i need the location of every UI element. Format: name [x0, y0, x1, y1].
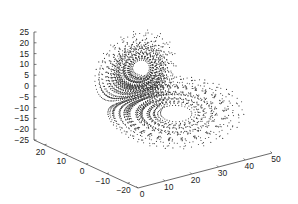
z-tick-label: −15	[15, 113, 30, 123]
x-tick-label: 50	[271, 154, 281, 164]
x-tick-label: 20	[191, 175, 201, 185]
z-axis-ticks: 2520151050−5−10−15−20−25	[15, 27, 37, 145]
z-tick-label: −10	[15, 103, 30, 113]
z-tick-label: 15	[20, 49, 30, 59]
lorenz-3d-plot: 2520151050−5−10−15−20−25 20100−10−20 010…	[0, 0, 298, 204]
z-tick-label: −25	[15, 135, 30, 145]
x-tick	[190, 172, 192, 174]
x-tick-label: 0	[140, 189, 145, 199]
x-tick	[270, 151, 272, 153]
x-tick	[244, 158, 246, 160]
z-tick-label: 25	[20, 27, 30, 37]
y-tick-label: 20	[36, 147, 46, 157]
z-tick-label: 5	[24, 70, 29, 80]
attractor-points	[94, 29, 244, 149]
z-tick-label: 10	[20, 59, 30, 69]
x-axis-ticks: 01020304050	[136, 151, 281, 199]
z-tick-label: −5	[19, 92, 29, 102]
y-tick	[86, 163, 88, 164]
x-tick-label: 30	[218, 168, 228, 178]
y-tick-label: 0	[80, 166, 85, 176]
y-tick-label: −20	[116, 185, 131, 195]
y-axis-ticks: 20100−10−20	[36, 144, 131, 195]
z-tick-label: 0	[24, 81, 29, 91]
y-tick	[128, 183, 130, 184]
y-tick	[107, 173, 109, 174]
z-tick-label: 20	[20, 38, 30, 48]
y-tick-label: −10	[96, 176, 111, 186]
z-tick-label: −20	[15, 124, 30, 134]
x-tick-label: 10	[164, 182, 174, 192]
x-tick	[217, 165, 219, 167]
x-tick-label: 40	[244, 161, 254, 171]
y-tick	[44, 144, 46, 145]
x-tick	[163, 179, 165, 181]
y-tick	[65, 154, 67, 155]
y-tick-label: 10	[56, 156, 66, 166]
